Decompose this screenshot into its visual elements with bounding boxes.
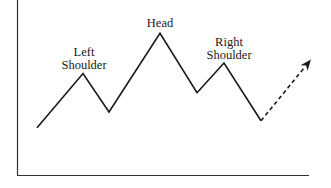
head-label-line-1: Head <box>147 17 173 30</box>
projection-dashed-line <box>261 68 304 121</box>
left-shoulder-label: Left Shoulder <box>61 46 106 72</box>
right-shoulder-label: Right Shoulder <box>206 36 251 62</box>
head-and-shoulders-diagram: Left Shoulder Head Right Shoulder <box>0 0 331 188</box>
right-shoulder-label-line-2: Shoulder <box>206 49 251 62</box>
head-label: Head <box>147 17 173 30</box>
left-shoulder-label-line-2: Shoulder <box>61 59 106 72</box>
